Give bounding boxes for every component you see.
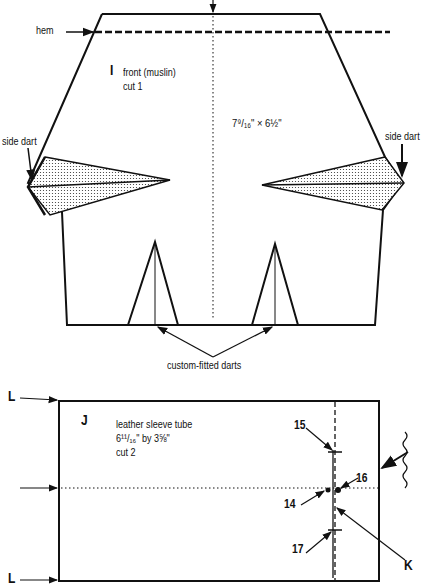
piece-j-dimensions: 6¹¹/₁₆" by 3⅝" xyxy=(116,432,170,445)
side-dart-right-label: side dart xyxy=(385,130,420,143)
piece-j-letter: J xyxy=(81,414,88,427)
marker-K: K xyxy=(404,559,413,572)
point-16 xyxy=(335,487,341,493)
piece-j-name: leather sleeve tube xyxy=(116,418,192,431)
side-dart-left-label: side dart xyxy=(2,135,37,148)
side-dart-left xyxy=(28,157,170,215)
point-14 xyxy=(326,488,331,493)
side-dart-left-arrow xyxy=(28,148,32,180)
piece-j-outline xyxy=(59,401,379,581)
custom-dart-arrow-right xyxy=(213,327,272,357)
L-top-label: L xyxy=(8,390,15,403)
wavy-edge xyxy=(403,432,407,488)
piece-i-name: front (muslin) xyxy=(123,66,176,79)
piece-i-dimensions: 7⁹/₁₆" × 6½" xyxy=(232,117,282,130)
marker-14: 14 xyxy=(284,498,295,511)
marker-17: 17 xyxy=(292,543,303,556)
marker-15: 15 xyxy=(294,419,305,432)
custom-dart-arrow-left xyxy=(158,327,213,357)
piece-j-cut: cut 2 xyxy=(116,446,136,459)
custom-darts-label: custom-fitted darts xyxy=(167,359,241,372)
custom-dart-left xyxy=(128,242,178,325)
L-bottom-label: L xyxy=(8,572,15,585)
wavy-arrow xyxy=(382,452,408,468)
pattern-diagram xyxy=(0,0,428,588)
piece-i-cut: cut 1 xyxy=(123,80,143,93)
marker-16: 16 xyxy=(356,472,367,485)
L-top-arrow xyxy=(20,398,57,400)
piece-i-letter: I xyxy=(110,64,113,77)
side-dart-right xyxy=(262,157,404,210)
hem-label: hem xyxy=(36,24,54,37)
custom-dart-right xyxy=(252,244,298,325)
